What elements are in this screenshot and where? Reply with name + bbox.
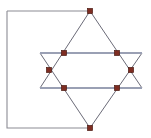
- vertex-node-layer: [47, 9, 134, 131]
- hexagram-diagram-svg: [0, 0, 151, 138]
- node-upper-right: [115, 51, 120, 56]
- node-lower-right: [115, 86, 120, 91]
- node-right-crossing: [129, 68, 134, 73]
- node-top-apex: [88, 9, 93, 14]
- figure-container: [0, 0, 151, 138]
- node-upper-left: [62, 51, 67, 56]
- node-left-crossing: [47, 68, 52, 73]
- node-lower-left: [62, 86, 67, 91]
- node-bottom-apex: [88, 126, 93, 131]
